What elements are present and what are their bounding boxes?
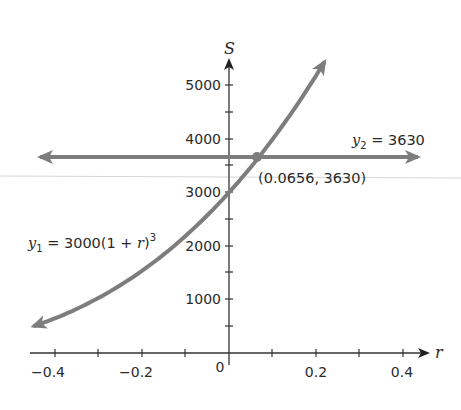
x-tick-label: −0.4 (31, 364, 65, 380)
chart: −0.4 −0.2 0 0.2 0.4 r 5000 4000 3000 200… (0, 0, 461, 410)
x-tick-label: −0.2 (119, 364, 153, 380)
origin-label: 0 (216, 359, 225, 375)
y2-label: y2 = 3630 (351, 132, 425, 151)
y-tick-label: 5000 (185, 77, 221, 93)
intersection-label: (0.0656, 3630) (258, 170, 366, 186)
artifact-line (0, 176, 461, 178)
x-axis-label: r (435, 343, 444, 362)
x-tick-label: 0.2 (305, 364, 327, 380)
y-tick-label: 1000 (185, 291, 221, 307)
y1-curve (33, 62, 324, 327)
y1-label: y1 = 3000(1 + r)3 (27, 232, 156, 254)
x-tick-label: 0.4 (391, 364, 413, 380)
intersection-point (252, 152, 262, 162)
y-axis: 5000 4000 3000 2000 1000 S (185, 39, 235, 365)
y-tick-label: 3000 (185, 184, 221, 200)
y-axis-label: S (224, 39, 235, 58)
y-tick-label: 4000 (185, 131, 221, 147)
y-tick-label: 2000 (185, 238, 221, 254)
x-axis: −0.4 −0.2 0 0.2 0.4 r (30, 343, 444, 380)
